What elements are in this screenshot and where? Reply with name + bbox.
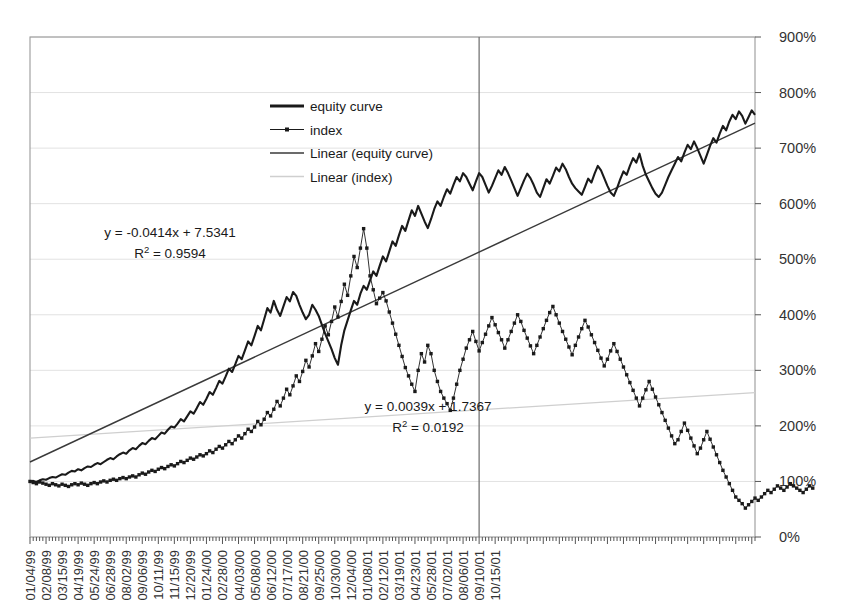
index-data-marker (288, 393, 291, 396)
index-data-marker (388, 310, 391, 313)
x-axis-tick-label: 02/28/00 (215, 550, 230, 601)
x-axis-tick-label: 02/12/01 (376, 550, 391, 601)
index-data-marker (413, 390, 416, 393)
index-data-marker (256, 420, 259, 423)
index-data-marker (307, 365, 310, 368)
index-data-marker (285, 388, 288, 391)
annotations: y = -0.0414x + 7.5341R2 = 0.9594y = 0.00… (104, 225, 491, 435)
index-data-marker (262, 418, 265, 421)
index-data-marker (458, 369, 461, 372)
index-data-marker (497, 331, 500, 334)
index-data-marker (526, 336, 529, 339)
index-data-marker (554, 313, 557, 316)
index-data-marker (343, 283, 346, 286)
x-axis-tick-label: 12/04/00 (344, 550, 359, 601)
index-data-marker (372, 288, 375, 291)
index-data-marker (750, 500, 753, 503)
index-data-marker (259, 423, 262, 426)
index-data-marker (561, 330, 564, 333)
index-data-marker (227, 440, 230, 443)
index-data-marker (766, 489, 769, 492)
index-data-marker (734, 495, 737, 498)
index-data-marker (410, 383, 413, 386)
index-data-marker (134, 475, 137, 478)
index-data-marker (41, 481, 44, 484)
plot-area-border (30, 37, 755, 537)
index-data-marker (651, 388, 654, 391)
x-axis-tick-label: 08/02/99 (119, 550, 134, 601)
x-axis-tick-label: 01/04/99 (23, 550, 38, 601)
index-data-marker (519, 320, 522, 323)
equity-curve-vs-index-chart: 0%100%200%300%400%500%600%700%800%900% 0… (0, 0, 862, 611)
index-data-marker (465, 346, 468, 349)
index-data-marker (538, 335, 541, 338)
index-data-marker (378, 296, 381, 299)
x-axis-tick-label: 05/08/00 (248, 550, 263, 601)
index-data-marker (558, 321, 561, 324)
index-data-marker (455, 383, 458, 386)
index-data-marker (179, 460, 182, 463)
y-axis-tick-label: 300% (779, 362, 816, 378)
r-symbol: R (134, 246, 144, 261)
index-data-marker (420, 352, 423, 355)
index-data-marker (731, 489, 734, 492)
index-data-marker (439, 390, 442, 393)
index-data-marker (359, 246, 362, 249)
index-data-marker (102, 479, 105, 482)
index-data-marker (753, 496, 756, 499)
index-data-marker (638, 404, 641, 407)
x-axis-tick-label: 11/15/99 (167, 550, 182, 600)
index-data-marker (304, 359, 307, 362)
index-data-marker (705, 430, 708, 433)
index-data-marker (789, 482, 792, 485)
index-data-marker (221, 446, 224, 449)
x-axis-labels: 01/04/9902/08/9903/15/9904/19/9905/24/99… (23, 550, 503, 601)
index-data-marker (362, 227, 365, 230)
plot-border (30, 37, 755, 537)
legend-label: equity curve (310, 99, 383, 114)
index-data-marker (744, 506, 747, 509)
index-data-marker (48, 484, 51, 487)
index-data-marker (192, 458, 195, 461)
index-data-marker (176, 462, 179, 465)
y-axis-tick-label: 800% (779, 85, 816, 101)
index-data-marker (779, 486, 782, 489)
index-data-marker (92, 481, 95, 484)
x-axis-tick-label: 07/17/00 (280, 550, 295, 601)
index-data-marker (86, 484, 89, 487)
index-data-marker (205, 452, 208, 455)
y-axis-tick-label: 600% (779, 196, 816, 212)
index-data-marker (426, 344, 429, 347)
index-data-marker (416, 369, 419, 372)
index-data-marker (487, 324, 490, 327)
index-data-marker (522, 329, 525, 332)
index-data-marker (760, 495, 763, 498)
index-data-marker (60, 483, 63, 486)
legend-marker-index (285, 128, 289, 132)
index-data-marker (712, 445, 715, 448)
index-data-marker (73, 482, 76, 485)
index-data-marker (596, 349, 599, 352)
x-axis-tick-label: 03/15/99 (55, 550, 70, 601)
index-data-marker (619, 358, 622, 361)
index-data-marker (609, 349, 612, 352)
index-data-marker (670, 434, 673, 437)
index-data-marker (702, 438, 705, 441)
index-data-marker (503, 346, 506, 349)
index-data-marker (599, 356, 602, 359)
index-data-marker (721, 469, 724, 472)
index-data-marker (131, 474, 134, 477)
x-axis-tick-label: 02/08/99 (39, 550, 54, 601)
index-data-marker (689, 436, 692, 439)
index-data-marker (590, 333, 593, 336)
index-data-marker (477, 349, 480, 352)
index-data-marker (57, 484, 60, 487)
y-axis-tick-label: 700% (779, 140, 816, 156)
index-data-marker (80, 481, 83, 484)
index-data-marker (663, 419, 666, 422)
index-data-marker (740, 502, 743, 505)
index-data-marker (253, 425, 256, 428)
x-axis-tick-label: 09/10/01 (472, 550, 487, 601)
index-data-marker (352, 255, 355, 258)
index-data-marker (70, 483, 73, 486)
